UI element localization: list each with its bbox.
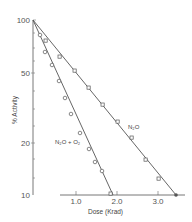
- x-tick-1: 1.0: [70, 197, 82, 206]
- x-tick-3: 3.0: [152, 197, 164, 206]
- fit-line-n2o: [33, 20, 176, 195]
- y-tick-10: 10: [21, 191, 30, 200]
- chart: 100 50 20 10 % Activity 1.0 2.0 3.0 Dose…: [0, 0, 192, 222]
- y-tick-50: 50: [21, 69, 30, 78]
- y-ticks: [31, 20, 36, 178]
- x-ticks: [76, 191, 158, 195]
- fit-line-n2o-o2: [33, 20, 113, 195]
- y-axis-label: % Activity: [11, 95, 19, 124]
- y-tick-100: 100: [17, 16, 31, 25]
- endpoint-marker: [174, 193, 178, 197]
- x-tick-2: 2.0: [111, 197, 123, 206]
- series-label-n2o-o2: N₂O + O₂: [55, 139, 81, 145]
- y-tick-20: 20: [21, 139, 30, 148]
- x-axis-label: Dose (Krad): [88, 208, 123, 216]
- series-label-n2o: N₂O: [128, 124, 140, 130]
